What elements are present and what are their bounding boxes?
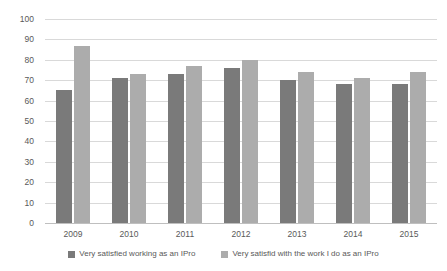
- y-axis-tick-label: 70: [25, 76, 34, 85]
- bar[interactable]: [186, 66, 202, 223]
- y-axis-tick-label: 60: [25, 96, 34, 105]
- y-axis-tick-label: 50: [25, 117, 34, 126]
- chart-legend: Very satisfied working as an IProVery sa…: [0, 249, 447, 259]
- x-axis: 2009201020112012201320142015: [45, 226, 437, 242]
- bar[interactable]: [298, 72, 314, 223]
- bar[interactable]: [354, 78, 370, 223]
- bar[interactable]: [74, 46, 90, 223]
- bar[interactable]: [130, 74, 146, 223]
- axis-baseline: [45, 223, 437, 224]
- y-axis-tick-label: 30: [25, 158, 34, 167]
- bar[interactable]: [410, 72, 426, 223]
- bar[interactable]: [56, 90, 72, 223]
- bar-group-2013: [269, 19, 325, 223]
- legend-item[interactable]: Very satisfied working as an IPro: [68, 249, 195, 259]
- bar[interactable]: [280, 80, 296, 223]
- bar-group-2009: [45, 19, 101, 223]
- y-axis-tick-label: 10: [25, 198, 34, 207]
- x-axis-tick-label: 2013: [269, 226, 325, 242]
- bar[interactable]: [224, 68, 240, 223]
- bar[interactable]: [168, 74, 184, 223]
- bar-group-2012: [213, 19, 269, 223]
- bar[interactable]: [112, 78, 128, 223]
- legend-swatch-icon: [68, 251, 75, 258]
- legend-label: Very satisfied working as an IPro: [79, 249, 195, 259]
- legend-item[interactable]: Very satisfid with the work I do as an I…: [221, 249, 378, 259]
- legend-swatch-icon: [221, 251, 228, 258]
- x-axis-tick-label: 2015: [381, 226, 437, 242]
- bar[interactable]: [242, 60, 258, 223]
- y-axis-tick-label: 20: [25, 178, 34, 187]
- bar-group-2010: [101, 19, 157, 223]
- y-axis-tick-label: 100: [20, 15, 34, 24]
- legend-label: Very satisfid with the work I do as an I…: [232, 249, 378, 259]
- bar[interactable]: [392, 84, 408, 223]
- x-axis-tick-label: 2011: [157, 226, 213, 242]
- bar-group-2014: [325, 19, 381, 223]
- bar-chart: 1009080706050403020100 20092010201120122…: [0, 0, 447, 271]
- bar[interactable]: [336, 84, 352, 223]
- y-axis-tick-label: 0: [29, 219, 34, 228]
- bar-groups: [45, 19, 437, 223]
- x-axis-tick-label: 2009: [45, 226, 101, 242]
- y-axis-tick-label: 90: [25, 35, 34, 44]
- y-axis-tick-label: 80: [25, 56, 34, 65]
- x-axis-tick-label: 2010: [101, 226, 157, 242]
- bar-group-2015: [381, 19, 437, 223]
- bar-group-2011: [157, 19, 213, 223]
- plot-area: [45, 19, 437, 223]
- x-axis-tick-label: 2012: [213, 226, 269, 242]
- x-axis-tick-label: 2014: [325, 226, 381, 242]
- y-axis-tick-label: 40: [25, 137, 34, 146]
- y-axis: 1009080706050403020100: [0, 19, 40, 223]
